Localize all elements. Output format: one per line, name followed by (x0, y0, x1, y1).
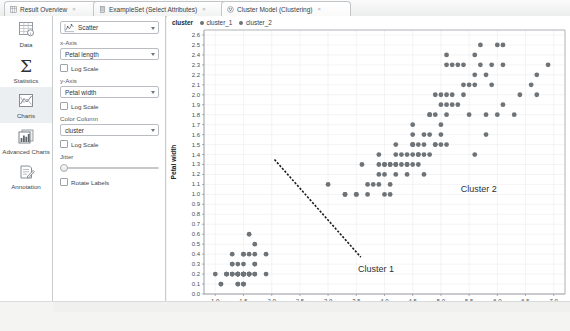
chevron-down-icon (151, 53, 155, 56)
data-point (467, 82, 472, 87)
tab-exampleset[interactable]: ExampleSet (Select Attributes) × (93, 1, 230, 16)
tab-close-icon[interactable]: × (202, 6, 206, 12)
data-point (495, 112, 500, 117)
data-point (393, 162, 398, 167)
data-point (450, 102, 455, 107)
data-point (534, 92, 539, 97)
tab-close-icon[interactable]: × (318, 6, 322, 12)
y-tick-label: 1.6 (192, 132, 201, 138)
data-point (517, 92, 522, 97)
data-point (376, 152, 381, 157)
tab-result-overview[interactable]: Result Overview × (4, 1, 102, 16)
plot-type-select[interactable]: Scatter (60, 21, 159, 34)
jitter-slider[interactable] (60, 163, 159, 172)
rotate-labels-checkbox[interactable]: Rotate Labels (60, 178, 159, 186)
data-point (388, 182, 393, 187)
data-point (444, 102, 449, 107)
result-overview-icon (10, 6, 17, 13)
y-tick-label: 1.0 (192, 191, 201, 197)
data-point (439, 132, 444, 137)
y-tick-label: 0.4 (192, 251, 201, 257)
data-point (472, 72, 477, 77)
sidebar-item-annotation[interactable]: Annotation (0, 158, 52, 194)
data-point (252, 262, 257, 267)
data-point (501, 62, 506, 67)
y-log-scale-checkbox[interactable]: Log Scale (60, 102, 159, 110)
y-tick-label: 2.3 (192, 62, 201, 68)
data-point (376, 172, 381, 177)
data-point (235, 262, 240, 267)
sidebar-item-charts[interactable]: Charts (0, 87, 52, 123)
data-point (354, 192, 359, 197)
data-point (433, 92, 438, 97)
data-point (444, 92, 449, 97)
data-point (546, 62, 551, 67)
data-point (405, 172, 410, 177)
data-point (393, 152, 398, 157)
chevron-down-icon (151, 91, 155, 94)
data-point (461, 92, 466, 97)
checkbox-label: Log Scale (71, 141, 99, 148)
data-point (410, 142, 415, 147)
data-point (393, 172, 398, 177)
status-bar (0, 301, 570, 331)
data-point (326, 182, 331, 187)
data-point (416, 152, 421, 157)
data-point (230, 252, 235, 257)
data-point (382, 192, 387, 197)
tab-label: Cluster Model (Clustering) (237, 6, 313, 13)
sigma-icon: Σ (16, 56, 36, 76)
data-point (410, 122, 415, 127)
y-tick-label: 2.5 (192, 42, 201, 48)
data-point (399, 162, 404, 167)
data-point (501, 43, 506, 48)
x-log-scale-checkbox[interactable]: Log Scale (60, 64, 159, 72)
tab-label: ExampleSet (Select Attributes) (109, 6, 197, 13)
data-point (416, 162, 421, 167)
slider-track (60, 167, 159, 169)
data-point (422, 152, 427, 157)
chart-annotation: Cluster 2 (461, 184, 497, 194)
y-axis-select[interactable]: Petal width (60, 86, 159, 98)
data-point (410, 152, 415, 157)
data-point (382, 162, 387, 167)
sidebar-item-advanced-charts[interactable]: Advanced Charts (0, 123, 52, 159)
color-column-select[interactable]: cluster (60, 124, 159, 136)
data-point (264, 272, 269, 277)
x-axis-select[interactable]: Petal length (60, 48, 159, 60)
data-point (219, 282, 224, 287)
data-point (410, 162, 415, 167)
data-point (439, 142, 444, 147)
data-point (241, 282, 246, 287)
data-point (247, 232, 252, 237)
sidebar-item-label: Data (19, 41, 32, 49)
data-point (388, 192, 393, 197)
slider-knob[interactable] (60, 164, 68, 172)
data-point (235, 282, 240, 287)
color-column-label: Color Column (60, 115, 159, 122)
sidebar-item-statistics[interactable]: Σ Statistics (0, 52, 52, 88)
data-point (224, 272, 229, 277)
data-point (472, 53, 477, 58)
data-point (360, 162, 365, 167)
tab-cluster-model[interactable]: Cluster Model (Clustering) × (221, 1, 351, 16)
plot-canvas[interactable]: 0.00.10.20.30.40.50.60.70.80.91.01.11.21… (167, 16, 570, 316)
scatter-chart: cluster cluster_1 cluster_2 0.00.10.20.3… (167, 16, 570, 316)
sidebar-item-label: Advanced Charts (2, 148, 49, 156)
y-tick-label: 0.3 (192, 261, 201, 267)
sidebar-item-label: Annotation (11, 183, 41, 191)
data-point (472, 82, 477, 87)
y-tick-label: 2.0 (192, 92, 201, 98)
checkbox-label: Log Scale (71, 65, 99, 72)
svg-text:Σ: Σ (20, 56, 32, 76)
data-point (455, 62, 460, 67)
y-tick-label: 0.7 (192, 221, 201, 227)
sidebar-item-data[interactable]: i Data (0, 16, 52, 52)
data-point (427, 152, 432, 157)
data-point (399, 152, 404, 157)
y-tick-label: 1.8 (192, 112, 201, 118)
tab-close-icon[interactable]: × (72, 6, 76, 12)
color-log-scale-checkbox[interactable]: Log Scale (60, 140, 159, 148)
plot-type-value: Scatter (78, 24, 98, 31)
y-tick-label: 0.2 (192, 271, 201, 277)
